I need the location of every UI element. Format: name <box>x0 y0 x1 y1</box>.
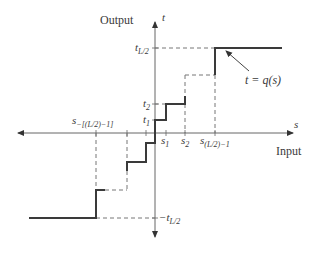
tick-s-last: s(L/2)−1 <box>200 134 230 149</box>
quantizer-diagram: Output t Input s tL/2 t2 t1 −tL/2 s1 s2 … <box>0 0 315 256</box>
t-axis-var: t <box>162 11 166 23</box>
tick-t1: t1 <box>143 113 150 128</box>
tick-t-bottom: −tL/2 <box>159 211 180 226</box>
input-axis-title: Input <box>276 144 302 158</box>
curve-label: t = q(s) <box>245 73 281 87</box>
tick-s-neg: s−[(L/2)−1] <box>72 114 113 129</box>
diagram-canvas: Output t Input s tL/2 t2 t1 −tL/2 s1 s2 … <box>0 0 315 256</box>
tick-s2: s2 <box>181 134 189 149</box>
tick-s1: s1 <box>161 134 169 149</box>
output-axis-title: Output <box>100 13 134 27</box>
tick-t2: t2 <box>143 97 150 112</box>
tick-t-top: tL/2 <box>135 41 149 56</box>
s-axis-var: s <box>294 118 298 130</box>
annotation-arrow <box>226 51 249 71</box>
